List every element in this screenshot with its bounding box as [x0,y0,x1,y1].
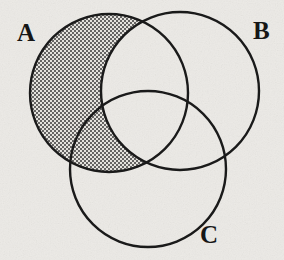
set-label-b: B [253,18,270,43]
venn-diagram-figure: A B C [0,0,284,260]
venn-diagram-canvas [0,0,284,260]
set-label-a: A [17,20,35,45]
set-label-c: C [200,222,218,247]
